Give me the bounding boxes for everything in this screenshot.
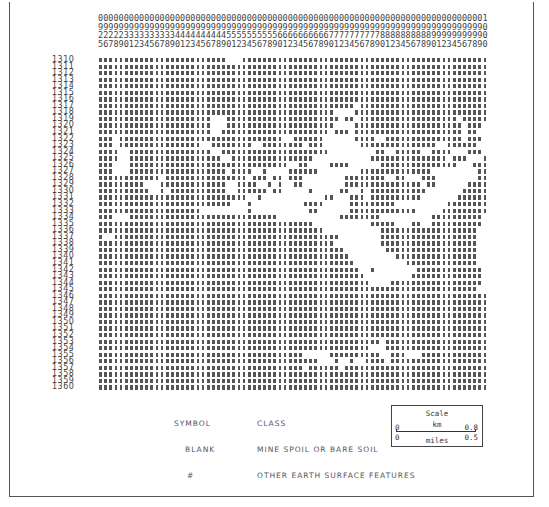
scale-bar xyxy=(396,431,476,432)
scale-tick-end xyxy=(475,429,476,432)
scale-title: Scale xyxy=(392,409,482,418)
scale-miles-end: 0.5 xyxy=(464,433,478,442)
legend-symbol-blank: BLANK xyxy=(185,445,215,454)
legend-class-header: CLASS xyxy=(257,419,286,428)
legend-class-mine-spoil: MINE SPOIL OR BARE SOIL xyxy=(257,445,379,454)
grid-row xyxy=(98,384,488,391)
column-header: 0000000000000000000000000000000000000000… xyxy=(98,14,490,48)
classification-grid xyxy=(98,57,488,391)
column-header-row: 5678901234567890123456789012345678901234… xyxy=(98,40,490,49)
legend-symbol-hash: # xyxy=(187,471,194,480)
row-label: 1360 xyxy=(52,384,74,391)
scale-tick-start xyxy=(396,429,397,432)
legend-class-other-features: OTHER EARTH SURFACE FEATURES xyxy=(257,471,415,480)
row-labels: 1310131113121313131413151316131713181319… xyxy=(52,57,74,391)
legend-symbol-header: SYMBOL xyxy=(174,419,211,428)
scale-box: Scale km 0 0.8 0 miles 0.5 xyxy=(391,405,483,447)
